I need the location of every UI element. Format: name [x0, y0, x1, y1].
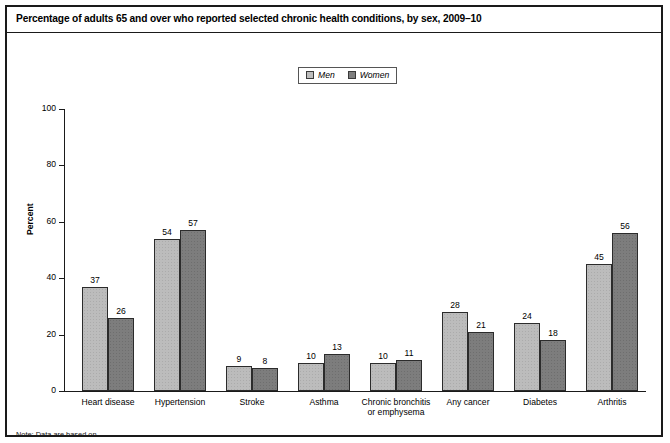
bar-value-label: 21 [476, 320, 486, 330]
x-axis-category-line: Asthma [309, 397, 338, 407]
x-axis-category-line: Chronic bronchitis [362, 397, 431, 407]
bar-group: 3726Heart disease [74, 109, 142, 391]
bar-women: 21 [468, 332, 494, 391]
bar-women: 18 [540, 340, 566, 391]
bar-women: 8 [252, 368, 278, 391]
bar-men: 9 [226, 366, 252, 391]
x-axis-category-label: Diabetes [523, 397, 557, 407]
bar-group: 1011Chronic bronchitisor emphysema [362, 109, 430, 391]
x-axis-category-label: Asthma [309, 397, 338, 407]
bar-women: 11 [396, 360, 422, 391]
bar-value-label: 13 [332, 342, 342, 352]
bar-value-label: 8 [263, 356, 268, 366]
y-tick-100: 100 [59, 109, 64, 110]
title-bar: Percentage of adults 65 and over who rep… [7, 7, 661, 33]
x-axis-category-label: Heart disease [81, 397, 134, 407]
x-axis-category-line: Diabetes [523, 397, 557, 407]
page-title: Percentage of adults 65 and over who rep… [16, 13, 482, 24]
x-axis-category-label: Stroke [240, 397, 265, 407]
y-tick-40: 40 [59, 278, 64, 279]
bar-value-label: 10 [306, 351, 316, 361]
bar-men: 10 [370, 363, 396, 391]
bar-group: 2418Diabetes [506, 109, 574, 391]
y-tick-label-80: 80 [46, 159, 56, 169]
y-tick-0: 0 [59, 391, 64, 392]
legend-item-women: Women [348, 70, 390, 80]
bar-group: 98Stroke [218, 109, 286, 391]
legend-label-women: Women [360, 70, 390, 80]
bar-group: 1013Asthma [290, 109, 358, 391]
x-axis-category-line: Hypertension [155, 397, 206, 407]
footnote: Note: Data are based on… [16, 430, 104, 437]
x-axis-category-label: Arthritis [597, 397, 626, 407]
x-axis-category-line: or emphysema [362, 407, 431, 417]
bar-value-label: 24 [522, 311, 532, 321]
legend-swatch-men-icon [306, 71, 314, 79]
y-tick-label-60: 60 [46, 216, 56, 226]
bar-men: 10 [298, 363, 324, 391]
y-axis-line [64, 109, 65, 392]
x-axis-line [64, 391, 646, 392]
bar-value-label: 37 [90, 275, 100, 285]
bar-women: 26 [108, 318, 134, 391]
y-tick-label-40: 40 [46, 272, 56, 282]
x-axis-category-line: Any cancer [447, 397, 490, 407]
figure-panel: Percentage of adults 65 and over who rep… [5, 5, 663, 437]
bar-group: 5457Hypertension [146, 109, 214, 391]
bar-value-label: 18 [548, 328, 558, 338]
y-tick-label-100: 100 [42, 103, 56, 113]
legend-swatch-women-icon [348, 71, 356, 79]
x-axis-category-label: Chronic bronchitisor emphysema [362, 397, 431, 417]
x-axis-category-label: Hypertension [155, 397, 206, 407]
bar-value-label: 28 [450, 300, 460, 310]
x-axis-category-line: Heart disease [81, 397, 134, 407]
y-tick-label-0: 0 [51, 385, 56, 395]
plot-area: 020406080100 3726Heart disease5457Hypert… [64, 109, 651, 392]
x-axis-category-label: Any cancer [447, 397, 490, 407]
bar-value-label: 11 [405, 348, 414, 358]
y-axis-title: Percent [25, 203, 35, 235]
bar-women: 56 [612, 233, 638, 391]
bar-value-label: 54 [162, 227, 172, 237]
bar-women: 57 [180, 230, 206, 391]
bar-value-label: 9 [237, 354, 242, 364]
bar-value-label: 57 [188, 218, 198, 228]
y-tick-20: 20 [59, 335, 64, 336]
bar-value-label: 56 [620, 221, 630, 231]
chart-legend: Men Women [298, 67, 397, 84]
bar-men: 54 [154, 239, 180, 391]
bar-group: 4556Arthritis [578, 109, 646, 391]
legend-label-men: Men [318, 70, 335, 80]
x-axis-category-line: Arthritis [597, 397, 626, 407]
bar-men: 24 [514, 323, 540, 391]
bar-value-label: 10 [378, 351, 388, 361]
bar-group: 2821Any cancer [434, 109, 502, 391]
bar-men: 28 [442, 312, 468, 391]
bar-value-label: 26 [116, 306, 126, 316]
bar-women: 13 [324, 354, 350, 391]
y-tick-label-20: 20 [46, 329, 56, 339]
y-tick-60: 60 [59, 222, 64, 223]
x-axis-category-line: Stroke [240, 397, 265, 407]
bar-men: 37 [82, 287, 108, 391]
bar-value-label: 45 [594, 252, 604, 262]
bar-men: 45 [586, 264, 612, 391]
y-tick-80: 80 [59, 165, 64, 166]
legend-item-men: Men [306, 70, 335, 80]
